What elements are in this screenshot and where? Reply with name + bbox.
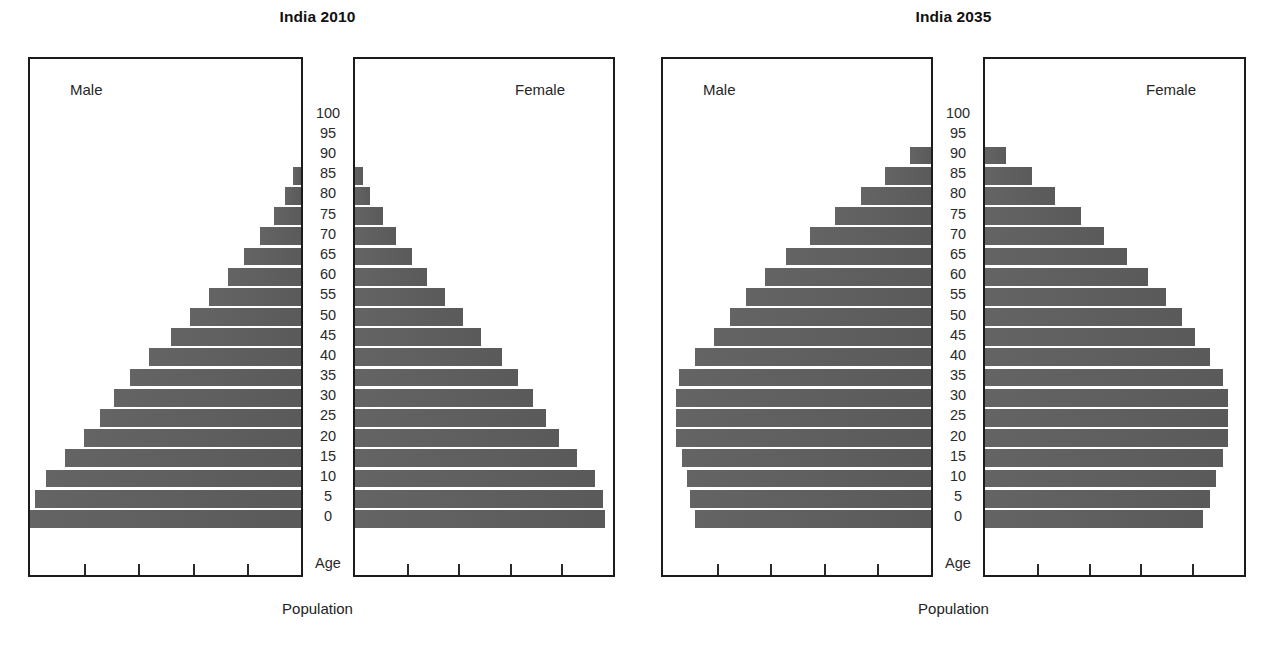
female-panel-2035: Female — [983, 57, 1246, 577]
bar-row — [30, 145, 301, 165]
axis-tick — [717, 564, 719, 575]
age-group-bar — [985, 207, 1081, 225]
age-group-bar — [260, 227, 301, 245]
age-group-bar — [355, 369, 518, 387]
bar-row — [985, 489, 1244, 509]
age-tick-label: 25 — [933, 408, 983, 423]
axis-tick — [407, 564, 409, 575]
bar-row — [985, 226, 1244, 246]
age-group-bar — [355, 268, 427, 286]
age-group-bar — [765, 268, 931, 286]
bar-row — [985, 125, 1244, 145]
age-group-bar — [985, 429, 1228, 447]
axis-tick — [1089, 564, 1091, 575]
age-group-bar — [209, 288, 301, 306]
bar-row — [663, 307, 931, 327]
bar-row — [30, 388, 301, 408]
age-group-bar — [355, 207, 383, 225]
axis-tick — [824, 564, 826, 575]
bar-row — [355, 428, 613, 448]
age-tick-label: 65 — [933, 247, 983, 262]
age-tick-label: 85 — [933, 166, 983, 181]
bar-row — [355, 327, 613, 347]
age-group-bar — [114, 389, 301, 407]
age-tick-label: 95 — [933, 126, 983, 141]
bar-row — [985, 347, 1244, 367]
age-group-bar — [130, 369, 301, 387]
age-tick-label: 10 — [933, 469, 983, 484]
age-tick-label: 0 — [933, 509, 983, 524]
bar-row — [663, 408, 931, 428]
age-tick-label: 50 — [303, 308, 353, 323]
age-tick-label: 15 — [303, 449, 353, 464]
male-panel-label-2035: Male — [703, 81, 736, 98]
bar-row — [663, 246, 931, 266]
age-group-bar — [810, 227, 931, 245]
bar-row — [985, 166, 1244, 186]
age-group-bar — [695, 510, 931, 528]
age-group-bar — [30, 510, 301, 528]
age-group-bar — [714, 328, 931, 346]
age-group-bar — [355, 248, 412, 266]
axis-tick — [561, 564, 563, 575]
bar-row — [355, 448, 613, 468]
bar-row — [663, 509, 931, 529]
age-group-bar — [676, 409, 931, 427]
bar-row — [355, 408, 613, 428]
bar-row — [30, 448, 301, 468]
male-bars-2035 — [663, 105, 931, 529]
bar-row — [663, 267, 931, 287]
age-group-bar — [985, 348, 1210, 366]
chart-title-2035: India 2035 — [636, 8, 1271, 26]
age-tick-label: 15 — [933, 449, 983, 464]
female-panel-label-2010: Female — [515, 81, 565, 98]
bar-row — [30, 307, 301, 327]
age-tick-label: 70 — [303, 227, 353, 242]
age-tick-label: 60 — [303, 267, 353, 282]
axis-tick — [138, 564, 140, 575]
age-tick-label: 35 — [303, 368, 353, 383]
age-group-bar — [985, 409, 1228, 427]
bar-row — [985, 509, 1244, 529]
age-group-bar — [355, 389, 533, 407]
axis-tick — [84, 564, 86, 575]
bar-row — [985, 206, 1244, 226]
age-group-bar — [285, 187, 301, 205]
bar-row — [985, 388, 1244, 408]
age-group-bar — [355, 167, 363, 185]
bar-row — [663, 347, 931, 367]
age-group-bar — [985, 449, 1223, 467]
bar-row — [355, 509, 613, 529]
age-group-bar — [985, 288, 1166, 306]
age-group-bar — [985, 510, 1203, 528]
age-group-bar — [355, 328, 481, 346]
bar-row — [30, 327, 301, 347]
bar-row — [355, 287, 613, 307]
age-group-bar — [355, 470, 595, 488]
axis-tick — [247, 564, 249, 575]
age-tick-label: 40 — [303, 348, 353, 363]
female-axis-ticks-2035 — [985, 564, 1244, 575]
female-panel-2010: Female — [353, 57, 615, 577]
bar-row — [30, 489, 301, 509]
axis-tick — [1140, 564, 1142, 575]
age-group-bar — [746, 288, 931, 306]
male-axis-ticks-2035 — [663, 564, 931, 575]
bar-row — [663, 166, 931, 186]
bar-row — [30, 347, 301, 367]
age-group-bar — [355, 409, 546, 427]
bar-row — [985, 408, 1244, 428]
female-bars-2010 — [355, 105, 613, 529]
age-group-bar — [682, 449, 931, 467]
age-tick-label: 75 — [303, 207, 353, 222]
bar-row — [985, 428, 1244, 448]
bar-row — [30, 509, 301, 529]
age-tick-label: 65 — [303, 247, 353, 262]
age-group-bar — [676, 429, 931, 447]
population-pyramid-2035: India 2035 Male 100959085807570656055504… — [636, 0, 1271, 645]
bar-row — [985, 287, 1244, 307]
bar-row — [985, 105, 1244, 125]
age-tick-label: 5 — [933, 489, 983, 504]
bar-row — [985, 307, 1244, 327]
bar-row — [30, 246, 301, 266]
